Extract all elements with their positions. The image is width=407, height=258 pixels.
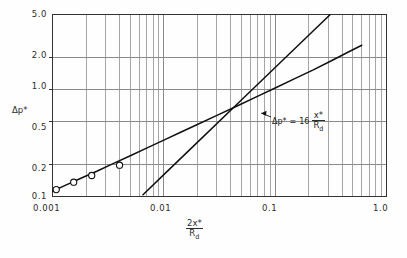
y-tick-label-1: 2.0 [18,50,47,60]
data-point-2 [71,179,77,185]
x-axis-title-denominator-subscript: d [195,233,199,241]
annotation-fraction: x* Rd [312,111,324,132]
y-tick-label-3: 0.5 [18,122,47,132]
y-axis-title: Δp* [12,105,27,115]
data-markers [53,162,123,193]
annotation-lhs: Δp* [272,117,287,126]
x-tick-label-1: 0.01 [150,203,171,213]
y-tick-label-5: 0.1 [18,191,47,201]
data-point-3 [89,172,95,178]
y-tick-label-0: 5.0 [18,9,47,19]
y-tick-label-4: 0.2 [18,163,47,173]
chart-canvas [0,0,407,258]
annotation-arrowhead [261,111,266,116]
x-tick-label-2: 0.1 [262,203,277,213]
y-tick-label-2: 1.0 [18,81,47,91]
annotation-denominator: Rd [312,121,324,133]
x-axis-title-denominator: Rd [186,229,203,241]
minor-gridlines [86,15,381,197]
equation-annotation: Δp* = 16 x* Rd [272,111,325,132]
x-axis-title-fraction: 2x* Rd [186,219,203,240]
annotation-coefficient: 16 [299,117,309,126]
x-tick-label-3: 1.0 [373,203,388,213]
data-point-1 [53,187,59,193]
horizontal-gridlines [49,57,387,164]
annotation-equals: = [290,117,297,126]
data-point-4 [116,162,122,168]
x-axis-title: 2x* Rd [186,219,203,240]
curve-linear-asymptote [143,0,353,195]
annotation-leader-line [261,111,271,117]
figure-container: 5.0 2.0 1.0 0.5 0.2 0.1 Δp* 0.001 0.01 0… [0,0,407,258]
annotation-denominator-subscript: d [319,125,323,133]
data-curves [53,0,362,195]
x-tick-label-0: 0.001 [33,203,60,213]
